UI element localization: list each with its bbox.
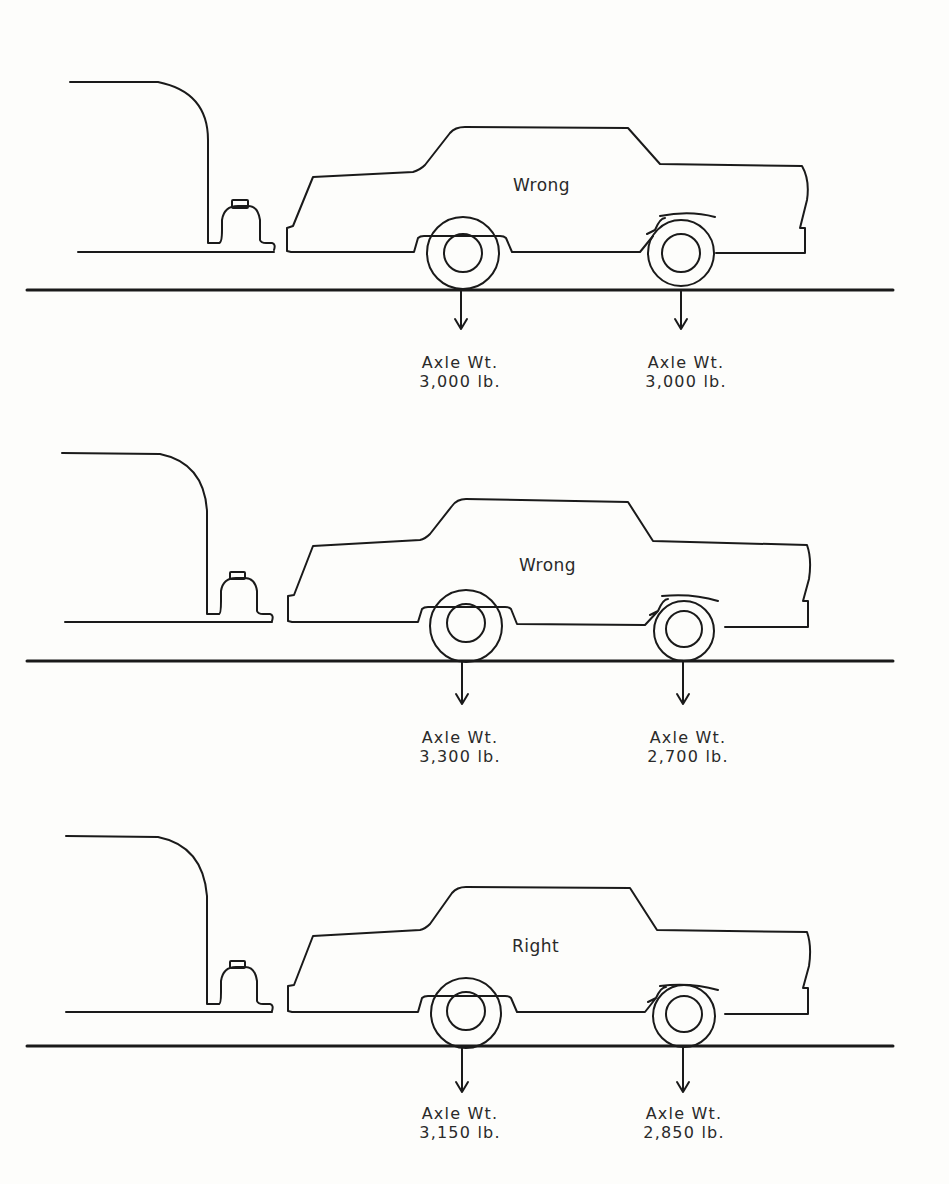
front-axle-value: 3,000 lb. [645, 372, 726, 391]
rear-axle-arrow [456, 1046, 468, 1092]
rear-hubcap [447, 992, 485, 1030]
rear-axle-caption: Axle Wt. [419, 1104, 500, 1123]
front-hubcap [666, 611, 702, 647]
trailer-hitch [219, 578, 273, 621]
verdict-label: Wrong [519, 555, 576, 575]
trailer-outline [70, 82, 219, 243]
front-axle-weight: Axle Wt. 3,000 lb. [645, 353, 726, 391]
rear-axle-caption: Axle Wt. [419, 353, 500, 372]
trailer-hitch [219, 206, 275, 250]
front-axle-value: 2,850 lb. [643, 1123, 724, 1142]
diagram-panel-2: Wrong Axle Wt. 3,300 lb. Axle Wt. 2,700 … [0, 441, 949, 781]
diagram-panel-1: Wrong Axle Wt. 3,000 lb. Axle Wt. 3,000 … [0, 70, 949, 410]
rear-axle-weight: Axle Wt. 3,000 lb. [419, 353, 500, 391]
front-axle-arrow [677, 661, 689, 704]
trailer-outline [66, 836, 219, 1004]
front-tire [648, 220, 714, 286]
rear-axle-caption: Axle Wt. [419, 728, 500, 747]
front-hubcap [662, 234, 700, 272]
rear-tire [431, 978, 501, 1048]
front-axle-caption: Axle Wt. [643, 1104, 724, 1123]
front-axle-caption: Axle Wt. [647, 728, 728, 747]
front-axle-weight: Axle Wt. 2,850 lb. [643, 1104, 724, 1142]
front-tire [653, 985, 715, 1047]
rear-axle-arrow [456, 661, 468, 704]
rear-tire [430, 590, 502, 662]
front-hubcap [666, 996, 702, 1032]
rear-hubcap [444, 234, 482, 272]
rear-axle-value: 3,000 lb. [419, 372, 500, 391]
trailer-hitch [219, 967, 273, 1011]
front-axle-value: 2,700 lb. [647, 747, 728, 766]
rear-axle-arrow [455, 290, 467, 329]
rear-hubcap [447, 604, 485, 642]
front-axle-arrow [675, 290, 687, 329]
front-axle-arrow [677, 1046, 689, 1092]
trailer-outline [62, 453, 219, 614]
rear-tire [427, 217, 499, 289]
verdict-label: Wrong [513, 175, 570, 195]
diagram-panel-3: Right Axle Wt. 3,150 lb. Axle Wt. 2,850 … [0, 826, 949, 1166]
rear-axle-value: 3,300 lb. [419, 747, 500, 766]
front-axle-caption: Axle Wt. [645, 353, 726, 372]
rear-axle-weight: Axle Wt. 3,300 lb. [419, 728, 500, 766]
front-axle-weight: Axle Wt. 2,700 lb. [647, 728, 728, 766]
rear-axle-value: 3,150 lb. [419, 1123, 500, 1142]
rear-axle-weight: Axle Wt. 3,150 lb. [419, 1104, 500, 1142]
verdict-label: Right [512, 936, 559, 956]
